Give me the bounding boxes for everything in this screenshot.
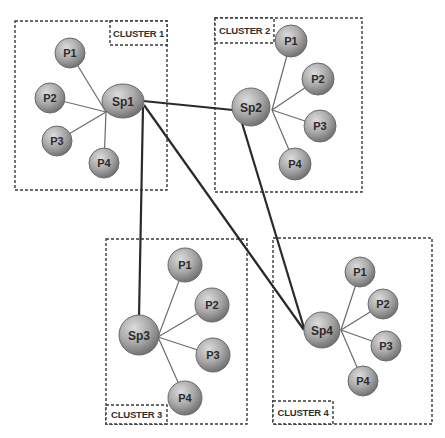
super-peer-label: Sp4	[311, 324, 333, 338]
peer-node-p2: P2	[35, 83, 65, 113]
peer-node-p3: P3	[304, 110, 336, 142]
super-peer-sp1: Sp1	[102, 84, 144, 118]
cluster-topology-diagram: CLUSTER 1CLUSTER 2CLUSTER 3CLUSTER 4 P1P…	[0, 0, 445, 438]
super-peer-sp4: Sp4	[304, 312, 340, 348]
peer-node-label: P2	[205, 299, 218, 311]
peer-node-p1: P1	[345, 257, 375, 287]
link-sp1-sp2	[143, 101, 233, 110]
peer-node-p4: P4	[279, 148, 311, 180]
cluster-label: CLUSTER 1	[113, 28, 165, 39]
super-peer-sp3: Sp3	[119, 315, 159, 355]
peer-node-label: P1	[178, 259, 191, 271]
peer-node-p3: P3	[42, 126, 72, 156]
diagram-canvas: CLUSTER 1CLUSTER 2CLUSTER 3CLUSTER 4 P1P…	[0, 0, 445, 438]
peer-node-label: P4	[97, 157, 111, 169]
peer-node-label: P1	[63, 47, 76, 59]
peer-node-p4: P4	[89, 148, 119, 178]
peer-node-label: P4	[288, 158, 302, 170]
peer-node-label: P3	[50, 135, 63, 147]
super-peer-sp2: Sp2	[232, 88, 270, 126]
peer-node-p1: P1	[55, 38, 85, 68]
super-peer-label: Sp3	[128, 329, 150, 343]
peer-node-p2: P2	[368, 289, 398, 319]
peer-node-label: P1	[353, 266, 366, 278]
peer-node-label: P2	[43, 92, 56, 104]
peer-node-label: P1	[284, 35, 297, 47]
peer-node-p4: P4	[348, 366, 378, 396]
peer-node-label: P2	[376, 298, 389, 310]
cluster-label: CLUSTER 3	[111, 409, 162, 420]
cluster-label: CLUSTER 2	[219, 25, 270, 36]
peer-node-p3: P3	[371, 331, 401, 361]
peer-node-label: P4	[178, 392, 192, 404]
peer-node-label: P4	[356, 375, 370, 387]
super-peer-label: Sp2	[240, 101, 262, 115]
peer-node-p1: P1	[275, 25, 307, 57]
peer-node-p3: P3	[196, 338, 230, 372]
peer-node-p4: P4	[168, 381, 202, 415]
peer-node-label: P3	[206, 349, 219, 361]
cluster-label: CLUSTER 4	[278, 407, 330, 418]
nodes-layer: P1P2P3P4Sp1P1P2P3P4Sp2P1P2P3P4Sp3P1P2P3P…	[35, 25, 401, 415]
peer-node-label: P2	[311, 73, 324, 85]
peer-node-p2: P2	[195, 288, 229, 322]
peer-node-label: P3	[379, 340, 392, 352]
peer-node-p2: P2	[302, 63, 334, 95]
peer-node-p1: P1	[168, 248, 202, 282]
peer-node-label: P3	[313, 120, 326, 132]
link-sp1-sp3	[139, 107, 143, 317]
super-peer-label: Sp1	[112, 95, 134, 109]
